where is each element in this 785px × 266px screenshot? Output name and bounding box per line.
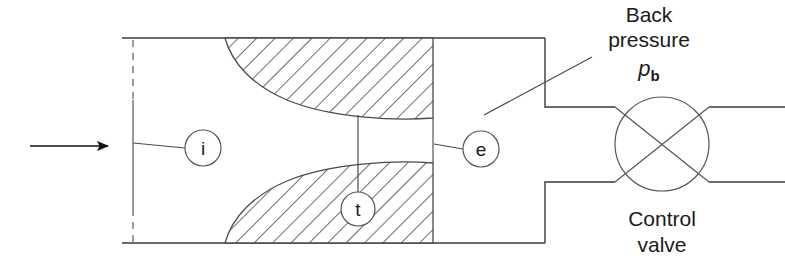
back-pressure-subscript: b — [651, 67, 660, 84]
back-pressure-label-line2: pressure — [608, 28, 690, 51]
plenum-chamber-outline — [545, 38, 615, 243]
control-valve-label-line2: valve — [637, 233, 686, 256]
back-pressure-symbol: p — [637, 56, 650, 81]
nozzle-upper-body — [225, 38, 433, 119]
control-valve-annotation: Control valve — [628, 207, 696, 256]
control-valve-symbol — [615, 97, 709, 191]
back-pressure-symbol-group: pb — [637, 56, 659, 84]
downstream-pipes — [709, 107, 785, 182]
back-pressure-annotation: Back pressure pb — [484, 3, 690, 115]
station-marker-inlet: i — [133, 130, 221, 166]
nozzle-diagram: i t e Back pressure pb Control valve — [0, 0, 785, 266]
nozzle-lower-body — [225, 162, 433, 243]
back-pressure-label-line1: Back — [626, 3, 673, 26]
station-label-inlet: i — [201, 138, 205, 159]
station-label-throat: t — [355, 199, 361, 220]
station-marker-exit: e — [434, 131, 499, 167]
diagram-canvas: i t e Back pressure pb Control valve — [0, 0, 785, 266]
station-label-exit: e — [476, 139, 487, 160]
control-valve-label-line1: Control — [628, 207, 696, 230]
